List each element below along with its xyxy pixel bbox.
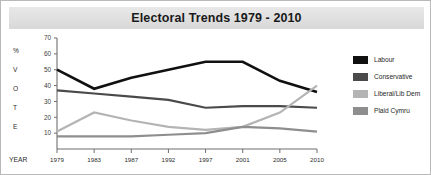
x-tick-label: 1979 (50, 156, 64, 163)
legend-swatch (353, 90, 368, 98)
y-axis-letter: O (13, 85, 18, 92)
y-tick-label: 40 (44, 82, 52, 89)
x-axis-ticks (57, 149, 317, 153)
y-axis-letter: % (13, 47, 19, 54)
legend-swatch (353, 107, 368, 115)
y-tick-label: 20 (44, 114, 52, 121)
legend-item[interactable]: Labour (353, 51, 431, 68)
legend-swatch (353, 56, 368, 64)
x-tick-label: 2010 (310, 156, 324, 163)
series-line (57, 86, 317, 132)
series-line (57, 62, 317, 92)
legend-label: Liberal/Lib Dem (374, 90, 420, 97)
y-tick-label: 30 (44, 98, 52, 105)
x-tick-label: 1997 (199, 156, 213, 163)
y-axis-ticks: 10203040506070 (44, 34, 57, 136)
data-series-group (57, 62, 317, 137)
chart-figure: Electoral Trends 1979 - 2010 10203040506… (0, 0, 431, 175)
y-axis-letter: T (13, 104, 17, 111)
legend-item[interactable]: Plaid Cymru (353, 102, 431, 119)
year-axis-label: YEAR (9, 156, 28, 163)
x-axis-labels: 19791983198719921997200120052010 (50, 156, 324, 163)
y-tick-label: 60 (44, 50, 52, 57)
y-tick-label: 50 (44, 66, 52, 73)
x-tick-label: 2005 (273, 156, 287, 163)
legend-item[interactable]: Conservative (353, 68, 431, 85)
x-tick-label: 2001 (236, 156, 250, 163)
legend-label: Labour (374, 56, 395, 63)
chart-title-band: Electoral Trends 1979 - 2010 (9, 7, 424, 29)
legend-label: Plaid Cymru (374, 107, 410, 114)
y-axis-letter: V (13, 66, 18, 73)
y-axis-title-letters: %VOTE (13, 47, 19, 130)
y-tick-label: 10 (44, 129, 52, 136)
legend-label: Conservative (374, 73, 412, 80)
x-tick-label: 1987 (124, 156, 138, 163)
x-tick-label: 1992 (162, 156, 176, 163)
series-line (57, 90, 317, 107)
chart-legend: LabourConservativeLiberal/Lib DemPlaid C… (353, 51, 431, 119)
y-tick-label: 70 (44, 34, 52, 41)
legend-swatch (353, 73, 368, 81)
legend-item[interactable]: Liberal/Lib Dem (353, 85, 431, 102)
y-axis-letter: E (13, 123, 18, 130)
chart-title: Electoral Trends 1979 - 2010 (131, 11, 301, 25)
x-tick-label: 1983 (87, 156, 101, 163)
